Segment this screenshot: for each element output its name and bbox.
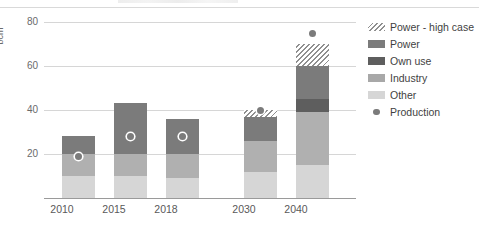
- legend-label-power-high-case: Power - high case: [390, 21, 474, 33]
- bar-2030[interactable]: [244, 110, 277, 198]
- x-tick-2040: 2040: [273, 203, 319, 215]
- bar-segment-industry-2018: [166, 154, 199, 178]
- bar-segment-own-use-2040: [296, 99, 329, 112]
- x-tick-2018: 2018: [143, 203, 189, 215]
- legend-item-power-high-case[interactable]: Power - high case: [368, 19, 479, 36]
- legend-label-industry: Industry: [390, 72, 427, 84]
- bar-segment-other-2015: [114, 176, 147, 198]
- legend-swatch-other-icon: [368, 91, 385, 99]
- bar-segment-other-2040: [296, 165, 329, 198]
- x-tick-2010: 2010: [39, 203, 85, 215]
- bar-segment-power-2010: [62, 136, 95, 154]
- chart-legend: Power - high case Power Own use Industry…: [368, 19, 479, 121]
- header-divider: [0, 7, 479, 8]
- x-tick-2015: 2015: [91, 203, 137, 215]
- production-marker-2018: [179, 133, 186, 140]
- cropped-header-text: [118, 0, 238, 3]
- bar-segment-power-2040: [296, 66, 329, 99]
- legend-item-other[interactable]: Other: [368, 87, 479, 104]
- y-tick-80: 80: [4, 17, 38, 27]
- y-tick-20: 20: [4, 149, 38, 159]
- legend-label-other: Other: [390, 89, 416, 101]
- legend-swatch-power-icon: [368, 40, 385, 48]
- legend-label-power: Power: [390, 38, 420, 50]
- gridline-80: [44, 22, 356, 23]
- legend-label-production: Production: [390, 106, 440, 118]
- bar-2015[interactable]: [114, 103, 147, 198]
- bar-segment-industry-2015: [114, 154, 147, 176]
- legend-swatch-production-dot-icon: [373, 109, 380, 116]
- bar-segment-power-2030: [244, 117, 277, 141]
- y-tick-40: 40: [4, 105, 38, 115]
- bar-segment-power-high-case-2040: [296, 44, 329, 66]
- bar-segment-industry-2030: [244, 141, 277, 172]
- x-axis-line: [44, 198, 356, 199]
- legend-item-power[interactable]: Power: [368, 36, 479, 53]
- legend-swatch-own-use-icon: [368, 57, 385, 65]
- bar-segment-other-2010: [62, 176, 95, 198]
- bar-segment-other-2030: [244, 172, 277, 198]
- bar-segment-industry-2040: [296, 112, 329, 165]
- production-marker-2040: [309, 30, 316, 37]
- legend-item-production[interactable]: Production: [368, 104, 479, 121]
- legend-swatch-industry-icon: [368, 74, 385, 82]
- y-axis-label: bcm: [0, 27, 5, 44]
- bar-2018[interactable]: [166, 119, 199, 198]
- bar-segment-power-2015: [114, 103, 147, 154]
- legend-item-own-use[interactable]: Own use: [368, 53, 479, 70]
- y-tick-60: 60: [4, 61, 38, 71]
- plot-area: [44, 22, 356, 198]
- legend-swatch-power-high-case-icon: [368, 23, 385, 31]
- stacked-bar-chart: bcm 80 60 40 20: [0, 0, 479, 228]
- production-marker-2030: [257, 107, 264, 114]
- x-tick-2030: 2030: [221, 203, 267, 215]
- bar-2010[interactable]: [62, 136, 95, 198]
- production-marker-2015: [127, 133, 134, 140]
- bar-segment-other-2018: [166, 178, 199, 198]
- production-marker-2010: [75, 153, 82, 160]
- legend-item-industry[interactable]: Industry: [368, 70, 479, 87]
- bar-2040[interactable]: [296, 44, 329, 198]
- legend-label-own-use: Own use: [390, 55, 431, 67]
